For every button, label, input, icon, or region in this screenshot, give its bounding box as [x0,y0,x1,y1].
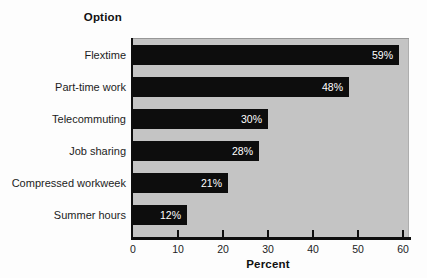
x-tick [222,230,224,237]
x-tick [357,230,359,237]
x-tick-label: 40 [298,243,328,255]
x-tick [177,230,179,237]
x-tick-label: 30 [253,243,283,255]
x-tick [267,230,269,237]
bar: 28% [133,141,259,161]
value-label: 12% [160,205,181,225]
x-tick-label: 50 [343,243,373,255]
category-label: Flextime [0,48,126,62]
category-label: Compressed workweek [0,176,126,190]
value-label: 28% [232,141,253,161]
x-tick-label: 60 [388,243,418,255]
y-axis-title: Option [0,11,122,23]
value-label: 30% [241,109,262,129]
bar-chart: Option Flextime59%Part-time work48%Telec… [0,0,427,278]
bar: 30% [133,109,268,129]
value-label: 48% [322,77,343,97]
x-tick-label: 20 [208,243,238,255]
bar: 59% [133,45,399,65]
x-tick [402,230,404,237]
bar: 21% [133,173,228,193]
category-label: Job sharing [0,144,126,158]
x-tick-label: 10 [163,243,193,255]
category-label: Part-time work [0,80,126,94]
x-tick-label: 0 [118,243,148,255]
category-label: Summer hours [0,208,126,222]
x-tick [312,230,314,237]
x-axis-line [131,237,411,240]
value-label: 59% [372,45,393,65]
x-axis-title: Percent [133,258,403,270]
bar: 12% [133,205,187,225]
value-label: 21% [201,173,222,193]
category-label: Telecommuting [0,112,126,126]
bar: 48% [133,77,349,97]
